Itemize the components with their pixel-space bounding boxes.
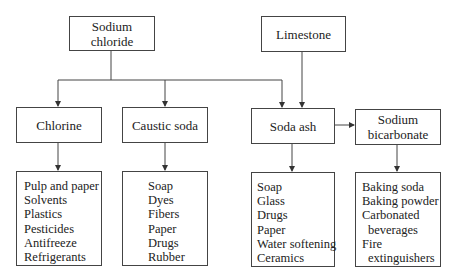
list-item: Antifreeze [24, 236, 101, 250]
sodium-bicarbonate-label-line2: bicarbonate [368, 127, 429, 142]
list-item: extinguishers [362, 251, 440, 265]
list-item: Refrigerants [24, 250, 101, 264]
chlorine-label: Chlorine [36, 118, 82, 133]
soda-ash-uses-list: Soap Glass Drugs Paper Water softening C… [251, 172, 335, 267]
sodium-bicarbonate-label-line1: Sodium [378, 112, 418, 127]
list-item: Carbonated [362, 208, 440, 222]
list-item: Fibers [148, 207, 207, 221]
list-item: Ceramics [257, 251, 334, 265]
list-item: Soap [148, 179, 207, 193]
caustic-soda-uses-list: Soap Dyes Fibers Paper Drugs Rubber [122, 171, 208, 266]
soda-ash-label: Soda ash [270, 119, 317, 134]
chlorine-uses-list: Pulp and paper Solvents Plastics Pestici… [16, 171, 102, 266]
list-item: Dyes [148, 193, 207, 207]
limestone-label: Limestone [276, 27, 331, 42]
chlorine-box: Chlorine [16, 107, 102, 143]
soda-ash-box: Soda ash [251, 108, 335, 144]
list-item: Fire [362, 237, 440, 251]
list-item: Pulp and paper [24, 179, 101, 193]
sodium-bicarbonate-box: Sodium bicarbonate [355, 109, 441, 145]
list-item: Soap [257, 180, 334, 194]
list-item: beverages [362, 223, 440, 237]
list-item: Pesticides [24, 222, 101, 236]
caustic-soda-label: Caustic soda [132, 118, 198, 133]
limestone-box: Limestone [261, 16, 346, 52]
sodium-chloride-label: Sodium chloride [70, 19, 154, 49]
sodium-bicarbonate-uses-list: Baking soda Baking powder Carbonated bev… [355, 172, 441, 267]
list-item: Drugs [257, 208, 334, 222]
sodium-chloride-box: Sodium chloride [69, 16, 155, 51]
list-item: Drugs [148, 236, 207, 250]
list-item: Solvents [24, 193, 101, 207]
list-item: Paper [257, 223, 334, 237]
list-item: Paper [148, 222, 207, 236]
list-item: Rubber [148, 250, 207, 264]
list-item: Water softening [257, 237, 334, 251]
caustic-soda-box: Caustic soda [122, 107, 208, 143]
list-item: Baking powder [362, 194, 440, 208]
list-item: Plastics [24, 207, 101, 221]
list-item: Glass [257, 194, 334, 208]
list-item: Baking soda [362, 180, 440, 194]
